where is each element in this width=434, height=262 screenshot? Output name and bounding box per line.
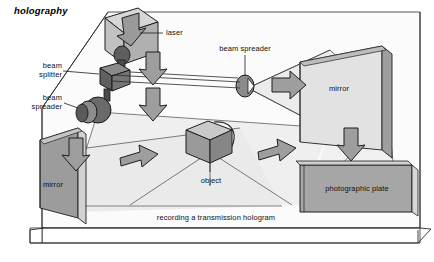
label-beam-spreader-left-line1: beam xyxy=(0,93,62,102)
diagram-canvas xyxy=(0,0,434,262)
photographic-plate-top-bevel xyxy=(296,161,412,165)
mirror-right-edge xyxy=(382,46,392,158)
label-beam-spreader-top: beam spreader xyxy=(205,44,285,53)
label-beam-spreader-left-line2: spreader xyxy=(0,102,62,111)
photographic-plate-right-edge xyxy=(412,165,418,216)
holography-diagram: holography laser beam splitter beam spre… xyxy=(0,0,434,262)
label-photographic-plate: photographic plate xyxy=(302,184,412,193)
label-mirror-right: mirror xyxy=(318,84,360,93)
beam-spreader-top-unit xyxy=(236,75,254,97)
label-object: object xyxy=(190,176,232,185)
label-beam-splitter-line1: beam xyxy=(0,61,62,70)
beam-spreader-left-core xyxy=(76,104,88,122)
label-beam-splitter-line2: splitter xyxy=(0,70,62,79)
base-left-edge xyxy=(30,228,42,243)
figure-title: holography xyxy=(14,6,68,15)
figure-caption: recording a transmission hologram xyxy=(138,213,294,222)
base-front-edge xyxy=(42,228,420,243)
label-laser: laser xyxy=(166,28,183,37)
label-mirror-left: mirror xyxy=(32,180,74,189)
